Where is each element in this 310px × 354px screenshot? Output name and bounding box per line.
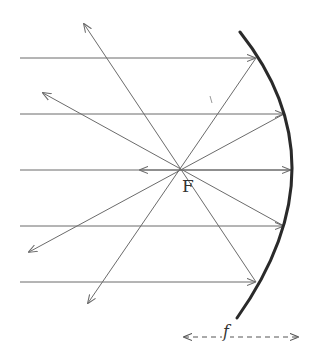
reflected-ray-1 bbox=[88, 58, 256, 303]
focal-length-label: f bbox=[222, 322, 230, 341]
focal-point-label: F bbox=[182, 176, 194, 196]
diagram-canvas bbox=[0, 0, 310, 354]
reflected-ray-5 bbox=[84, 24, 256, 282]
reflected-ray-4 bbox=[43, 93, 284, 226]
stray-mark bbox=[210, 96, 212, 103]
reflected-rays bbox=[29, 24, 291, 303]
concave-mirror-diagram: F f bbox=[0, 0, 310, 354]
reflected-ray-2 bbox=[29, 114, 284, 252]
concave-mirror bbox=[237, 32, 292, 318]
